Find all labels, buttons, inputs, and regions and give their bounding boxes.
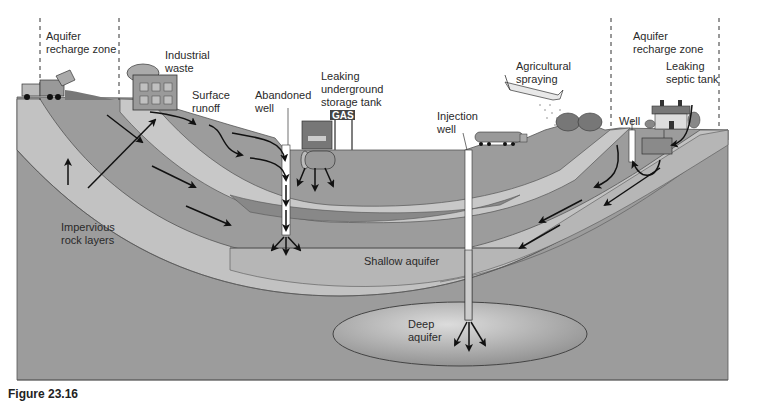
domestic-well	[629, 130, 635, 162]
house-icon	[645, 100, 700, 129]
label-impervious-rock-layers: Impervious rock layers	[61, 221, 115, 247]
label-shallow-aquifer: Shallow aquifer	[364, 255, 439, 268]
label-abandoned-well: Abandoned well	[255, 89, 311, 115]
label-injection-well: Injection well	[437, 110, 478, 136]
label-leaking-storage-tank: Leaking underground storage tank	[321, 70, 383, 109]
label-well: Well	[619, 115, 640, 128]
label-leaking-septic-tank: Leaking septic tank	[666, 60, 719, 86]
label-surface-runoff: Surface runoff	[192, 89, 230, 115]
label-deep-aquifer: Deep aquifer	[408, 318, 442, 344]
injection-well	[465, 150, 472, 320]
garbage-truck-icon	[22, 70, 115, 100]
label-agricultural-spraying: Agricultural spraying	[516, 60, 571, 86]
label-industrial-waste: Industrial waste	[165, 49, 210, 75]
label-aquifer-recharge-left: Aquifer recharge zone	[46, 30, 116, 56]
gas-sign-text: GAS	[332, 109, 354, 122]
label-aquifer-recharge-right: Aquifer recharge zone	[633, 30, 703, 56]
figure-caption: Figure 23.16	[8, 387, 78, 401]
